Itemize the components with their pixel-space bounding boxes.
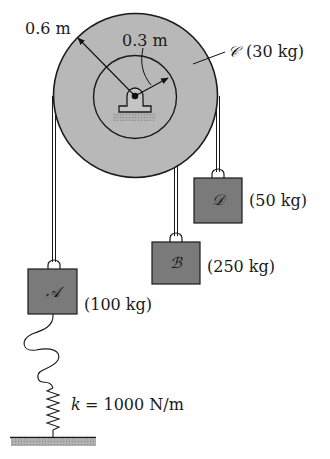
hook-d xyxy=(212,169,224,178)
block-a-mass-label: (100 kg) xyxy=(84,295,152,314)
spring-zigzag xyxy=(47,388,59,437)
pulley-mass-label: (30 kg) xyxy=(246,42,304,61)
support-ground-hatch xyxy=(113,113,156,121)
block-b-symbol: ℬ xyxy=(170,254,183,272)
pulley-system-diagram: 𝒜 ℬ 𝒟 0.6 m 0.3 m 𝒞 (30 kg) (50 kg) (250… xyxy=(0,0,330,459)
spring-slack-coil xyxy=(24,314,59,388)
block-a: 𝒜 xyxy=(28,269,77,314)
block-d: 𝒟 xyxy=(194,178,242,223)
hook-b xyxy=(170,233,182,242)
inner-radius-label: 0.3 m xyxy=(122,31,168,50)
spring-ground-hatch xyxy=(11,438,96,446)
outer-radius-label: 0.6 m xyxy=(25,19,71,38)
block-b: ℬ xyxy=(152,242,200,284)
spring-constant-label: = 1000 N/m xyxy=(85,395,184,414)
spring xyxy=(10,314,96,438)
block-d-mass-label: (50 kg) xyxy=(249,191,307,210)
hook-a xyxy=(48,260,60,269)
pulley-symbol: 𝒞 xyxy=(228,43,243,61)
block-b-mass-label: (250 kg) xyxy=(207,257,275,276)
spring-k-symbol: k xyxy=(71,395,81,414)
